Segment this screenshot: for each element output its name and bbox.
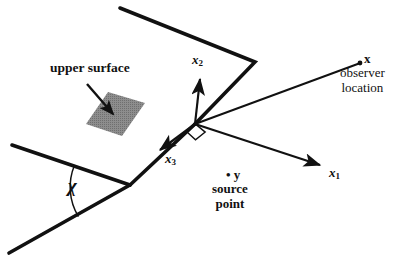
observer-caption-line-2: location (340, 81, 385, 96)
axis-label-x3-subscript: 3 (172, 157, 177, 167)
axis-label-x2: x2 (192, 53, 203, 68)
axis-label-x1: x1 (329, 166, 340, 181)
chi-angle-label: χ (68, 175, 77, 196)
axis-x1-line (195, 124, 320, 165)
observer-ray (195, 64, 359, 125)
observer-location-caption: observer location (340, 66, 385, 95)
axis-label-x1-subscript: 1 (336, 171, 341, 181)
axis-x3-line (160, 124, 195, 150)
diagram-canvas: upper surface χ x2 x3 x1 x observer loca… (0, 0, 405, 262)
source-caption-line-2: point (212, 197, 248, 212)
upper-surface-label: upper surface (50, 60, 130, 75)
source-point-caption: source point (212, 182, 248, 211)
upper-surface-patch (86, 92, 145, 136)
wedge-crest-edge (130, 124, 195, 185)
observer-caption-line-1: observer (340, 66, 385, 81)
axis-label-x2-subscript: 2 (199, 58, 204, 68)
axis-label-x3: x3 (165, 152, 176, 167)
source-caption-line-1: source (212, 182, 248, 197)
wedge-geometry-illustration (0, 0, 405, 262)
